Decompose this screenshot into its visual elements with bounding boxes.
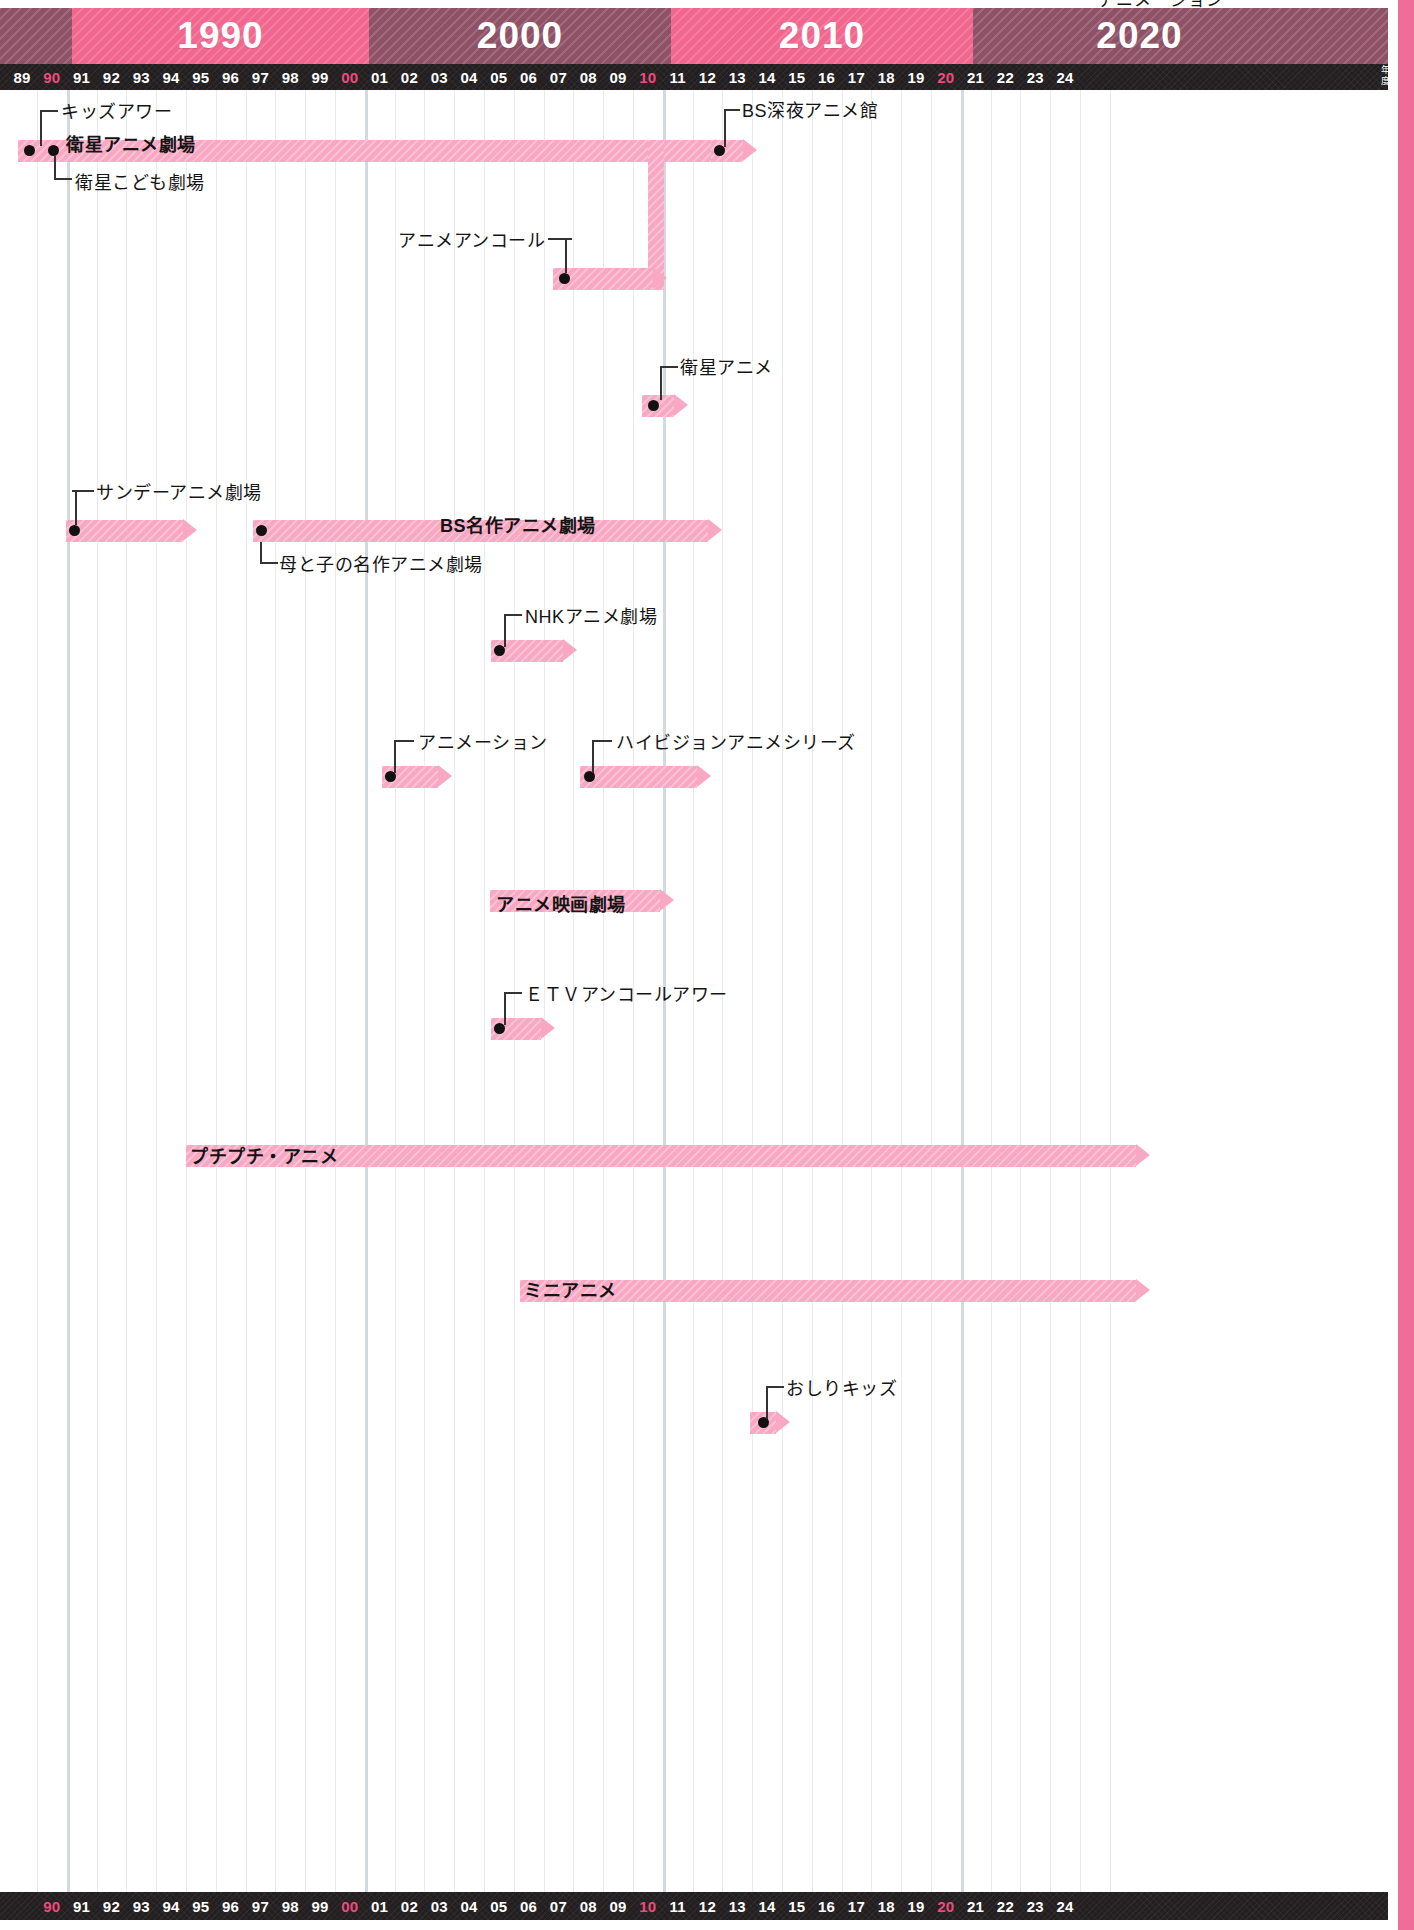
year-tick-top-18: 18 — [871, 64, 901, 90]
leader-line-h-hivision-anime-series — [592, 740, 612, 742]
year-tick-top-10: 10 — [633, 64, 663, 90]
year-tick-top-17: 17 — [842, 64, 872, 90]
year-tick-bottom-00: 00 — [335, 1892, 365, 1920]
leader-line-v-nhk-anime-gekijo — [504, 614, 506, 647]
year-tick-bottom-14: 14 — [752, 1892, 782, 1920]
year-tick-top-97: 97 — [246, 64, 276, 90]
leader-line-v-kids-hour — [40, 110, 42, 146]
leader-line-v-animation — [394, 740, 396, 773]
year-tick-top-14: 14 — [752, 64, 782, 90]
bar-label-anime-encore: アニメアンコール — [398, 226, 545, 252]
bar-label-eisei-anime-gekijo: 衛星アニメ劇場 — [66, 130, 196, 156]
gridline-104 — [484, 90, 485, 1892]
decade-label-1990: 1990 — [177, 15, 263, 57]
gridline-93 — [156, 90, 157, 1892]
year-axis-bottom: 9091929394959697989900010203040506070809… — [0, 1892, 1398, 1920]
year-tick-top-24: 24 — [1050, 64, 1080, 90]
bar-label-sunday-anime-gekijo: サンデーアニメ劇場 — [96, 478, 262, 504]
leader-line-v-bs-shinya-anime-kan — [724, 109, 726, 147]
leader-line-v-oshiri-kids — [766, 1386, 768, 1419]
bar-arrow-etv-encore-hour — [541, 1017, 555, 1039]
bar-arrow-nhk-anime-gekijo — [563, 639, 577, 661]
year-tick-top-98: 98 — [275, 64, 305, 90]
year-tick-top-92: 92 — [97, 64, 127, 90]
gridline-102 — [424, 90, 425, 1892]
year-tick-bottom-19: 19 — [901, 1892, 931, 1920]
gridline-125 — [1110, 90, 1111, 1892]
gridline-114 — [782, 90, 783, 1892]
year-tick-top-07: 07 — [544, 64, 574, 90]
year-axis-top: 年度 8990919293949596979899000102030405060… — [0, 64, 1398, 90]
page-top-caption: アニメーション — [0, 0, 1398, 8]
year-tick-bottom-10: 10 — [633, 1892, 663, 1920]
gridline-121 — [991, 90, 992, 1892]
bar-label-hahatoko-meisaku-anime-gekijo: 母と子の名作アニメ劇場 — [279, 550, 483, 576]
year-tick-bottom-05: 05 — [484, 1892, 514, 1920]
bar-arrow-sunday-anime-gekijo — [183, 519, 197, 541]
bar-arrow-oshiri-kids — [776, 1411, 790, 1433]
start-dot-kids-hour — [24, 145, 35, 156]
leader-line-v-eisei-kodomo-gekijo — [54, 156, 56, 179]
leader-line-v-anime-encore — [565, 238, 567, 273]
year-tick-bottom-15: 15 — [782, 1892, 812, 1920]
year-tick-top-05: 05 — [484, 64, 514, 90]
year-tick-top-13: 13 — [722, 64, 752, 90]
bar-label-bs-shinya-anime-kan: BS深夜アニメ館 — [742, 96, 878, 122]
year-tick-bottom-23: 23 — [1020, 1892, 1050, 1920]
gridline-122 — [1020, 90, 1021, 1892]
year-tick-top-01: 01 — [365, 64, 395, 90]
bar-label-etv-encore-hour: ＥＴＶアンコールアワー — [525, 980, 728, 1006]
decade-label-2020: 2020 — [1096, 15, 1182, 57]
decade-cell-1980s — [0, 8, 72, 64]
bar-arrow-anime-encore — [653, 267, 667, 289]
year-tick-top-94: 94 — [156, 64, 186, 90]
year-tick-bottom-99: 99 — [305, 1892, 335, 1920]
gridline-94 — [186, 90, 187, 1892]
year-tick-bottom-95: 95 — [186, 1892, 216, 1920]
decade-cell-2010: 2010 — [671, 8, 973, 64]
decade-label-2000: 2000 — [477, 15, 563, 57]
year-tick-bottom-98: 98 — [275, 1892, 305, 1920]
year-tick-bottom-93: 93 — [126, 1892, 156, 1920]
year-tick-bottom-90: 90 — [37, 1892, 67, 1920]
year-tick-bottom-21: 21 — [961, 1892, 991, 1920]
year-tick-bottom-17: 17 — [842, 1892, 872, 1920]
year-tick-bottom-96: 96 — [216, 1892, 246, 1920]
gridline-97 — [275, 90, 276, 1892]
bar-arrow-animation — [438, 765, 452, 787]
gridline-98 — [305, 90, 306, 1892]
gridline-89 — [37, 90, 38, 1892]
year-tick-top-20: 20 — [931, 64, 961, 90]
gridline-100 — [365, 90, 368, 1892]
year-tick-top-89: 89 — [7, 64, 37, 90]
bar-arrow-mini-anime — [1136, 1279, 1150, 1301]
year-tick-top-03: 03 — [424, 64, 454, 90]
year-tick-bottom-08: 08 — [573, 1892, 603, 1920]
bar-label-animation: アニメーション — [418, 728, 548, 754]
year-tick-bottom-01: 01 — [365, 1892, 395, 1920]
decade-band: 1990 2000 2010 2020 — [0, 8, 1398, 64]
leader-line-h-animation — [394, 740, 414, 742]
year-tick-bottom-12: 12 — [693, 1892, 723, 1920]
gridline-116 — [842, 90, 843, 1892]
page-top-caption-text: アニメーション — [1098, 0, 1224, 8]
year-tick-bottom-22: 22 — [991, 1892, 1021, 1920]
bar-arrow-bs-meisaku-anime-gekijo — [708, 519, 722, 541]
year-tick-top-15: 15 — [782, 64, 812, 90]
leader-line-h-hahatoko-meisaku-anime-gekijo — [260, 562, 278, 564]
year-tick-bottom-16: 16 — [812, 1892, 842, 1920]
year-tick-bottom-94: 94 — [156, 1892, 186, 1920]
bar-arrow-anime-eiga-gekijo — [660, 889, 674, 911]
gridline-92 — [126, 90, 127, 1892]
year-tick-top-12: 12 — [693, 64, 723, 90]
bar-hivision-anime-series — [580, 766, 697, 788]
bar-label-hivision-anime-series: ハイビジョンアニメシリーズ — [616, 728, 856, 754]
gridline-101 — [395, 90, 396, 1892]
year-tick-bottom-20: 20 — [931, 1892, 961, 1920]
year-tick-bottom-24: 24 — [1050, 1892, 1080, 1920]
gridline-118 — [901, 90, 902, 1892]
year-tick-top-21: 21 — [961, 64, 991, 90]
year-tick-bottom-06: 06 — [514, 1892, 544, 1920]
decade-cell-1990: 1990 — [72, 8, 369, 64]
bar-arrow-hivision-anime-series — [697, 765, 711, 787]
